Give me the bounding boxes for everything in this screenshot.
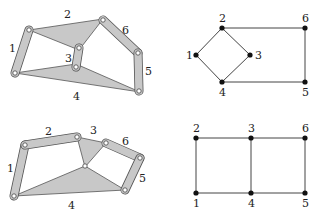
link-5-bar — [138, 53, 139, 91]
link-label-5: 5 — [139, 172, 146, 185]
node-label-6: 6 — [302, 12, 309, 25]
graph-b: 1 2 3 4 5 6 — [193, 122, 309, 210]
graph-node — [302, 190, 307, 195]
graph-node — [302, 25, 307, 30]
node-label-1: 1 — [186, 49, 193, 62]
graph-node — [219, 79, 224, 84]
link-label-6: 6 — [122, 135, 129, 148]
node-label-2: 2 — [219, 12, 226, 25]
node-label-5: 5 — [302, 86, 309, 99]
link-label-1: 1 — [9, 42, 16, 55]
graph-node — [247, 52, 252, 57]
graph-edge — [196, 28, 222, 55]
pin-joint — [83, 164, 87, 168]
pin-joint — [101, 18, 105, 22]
pin-joint — [137, 89, 141, 93]
link-label-4: 4 — [73, 90, 80, 103]
pin-joint — [104, 141, 108, 145]
pin-joint — [75, 135, 79, 139]
link-label-3: 3 — [65, 52, 72, 65]
graph-edge — [196, 55, 222, 82]
link-label-2: 2 — [45, 125, 52, 138]
link-3-bar — [76, 48, 79, 67]
link-label-3: 3 — [90, 124, 97, 137]
graph-edge — [222, 55, 250, 82]
link-2-plate — [29, 19, 103, 50]
link-6-bar — [103, 20, 138, 53]
node-label-4: 4 — [219, 86, 226, 99]
node-label-6: 6 — [302, 122, 309, 135]
node-label-2: 2 — [193, 122, 200, 135]
pin-joint — [13, 71, 17, 75]
link-5-bar — [125, 158, 140, 190]
graph-node — [248, 135, 253, 140]
link-label-4: 4 — [68, 199, 75, 212]
link-label-5: 5 — [145, 65, 152, 78]
graph-a: 1 2 3 4 5 6 — [186, 12, 309, 99]
pin-joint — [12, 194, 16, 198]
pin-joint — [74, 65, 78, 69]
node-label-3: 3 — [255, 49, 262, 62]
link-2-bar — [25, 137, 77, 145]
mechanism-b: 1 2 3 4 5 6 — [7, 124, 146, 212]
graph-node — [193, 135, 198, 140]
pin-joint — [27, 28, 31, 32]
graph-node — [193, 52, 198, 57]
link-4-plate — [14, 166, 125, 196]
node-label-3: 3 — [248, 122, 255, 135]
mechanism-a: 1 2 3 4 5 6 — [9, 8, 152, 103]
graph-edge — [222, 28, 250, 55]
pin-joint — [136, 51, 140, 55]
pin-joint — [123, 188, 127, 192]
link-label-1: 1 — [7, 162, 14, 175]
pin-joint — [138, 156, 142, 160]
graph-node — [219, 25, 224, 30]
link-label-6: 6 — [122, 24, 129, 37]
node-label-4: 4 — [248, 197, 255, 210]
link-label-2: 2 — [64, 8, 71, 21]
pin-joint — [77, 46, 81, 50]
node-label-5: 5 — [302, 197, 309, 210]
link-1-bar — [15, 30, 29, 73]
graph-node — [302, 135, 307, 140]
graph-node — [248, 190, 253, 195]
node-label-1: 1 — [193, 197, 200, 210]
graph-node — [193, 190, 198, 195]
link-1-bar — [14, 145, 25, 196]
link-3-plate — [77, 137, 106, 167]
graph-node — [302, 79, 307, 84]
pin-joint — [23, 143, 27, 147]
diagram-canvas: 1 2 3 4 5 6 1 2 3 4 5 6 — [0, 0, 318, 216]
